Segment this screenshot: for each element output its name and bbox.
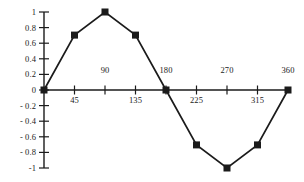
y-tick-label-0-8: 0.8 xyxy=(0,24,36,33)
data-point-marker xyxy=(254,141,261,148)
data-point-marker xyxy=(102,9,109,16)
y-tick-label-1: 1 xyxy=(0,8,36,17)
x-tick-label-225: 225 xyxy=(181,96,213,105)
y-tick-label-0-2: 0.2 xyxy=(0,70,36,79)
plot-area xyxy=(0,0,304,182)
y-tick-label-neg-0-6: - 0.6 xyxy=(0,133,36,142)
data-point-marker xyxy=(41,87,48,94)
data-point-marker xyxy=(224,165,231,172)
y-tick-label-0-4: 0.4 xyxy=(0,55,36,64)
data-point-marker xyxy=(285,87,292,94)
y-tick-label-neg-1: -1 xyxy=(0,164,36,173)
x-tick-label-360: 360 xyxy=(272,66,304,75)
data-point-marker xyxy=(71,32,78,39)
x-tick-label-315: 315 xyxy=(242,96,274,105)
data-point-marker xyxy=(132,32,139,39)
x-tick-label-270: 270 xyxy=(211,66,243,75)
y-tick-label-neg-0-8: - 0.8 xyxy=(0,148,36,157)
sine-wave-chart: 1 0.8 0.6 0.4 0.2 0 - 0.2 - 0.4 - 0.6 - … xyxy=(0,0,304,182)
data-point-marker xyxy=(193,141,200,148)
y-tick-label-0: 0 xyxy=(0,86,36,95)
y-tick-label-neg-0-4: - 0.4 xyxy=(0,117,36,126)
data-point-marker xyxy=(163,87,170,94)
x-tick-label-180: 180 xyxy=(150,66,182,75)
x-tick-label-135: 135 xyxy=(120,96,152,105)
y-tick-label-0-6: 0.6 xyxy=(0,39,36,48)
x-tick-label-90: 90 xyxy=(89,66,121,75)
x-tick-label-45: 45 xyxy=(59,96,91,105)
y-tick-label-neg-0-2: - 0.2 xyxy=(0,102,36,111)
